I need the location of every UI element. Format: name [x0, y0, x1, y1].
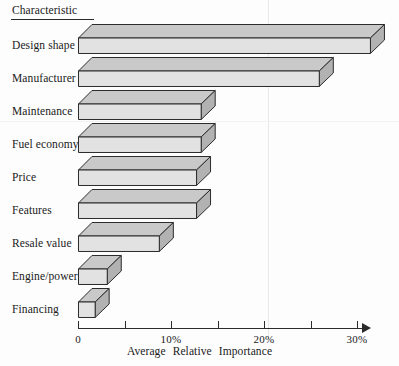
bar-fuel-economy — [78, 123, 216, 153]
x-tick-25 — [311, 321, 312, 329]
category-label-price: Price — [12, 171, 36, 183]
category-label-financing: Financing — [12, 303, 59, 315]
x-tick-15 — [218, 321, 219, 329]
bar-financing — [78, 288, 110, 318]
category-label-manufacturer: Manufacturer — [12, 72, 76, 84]
bar-features — [78, 189, 211, 219]
x-tick-5 — [125, 321, 126, 329]
x-tick-0 — [78, 321, 79, 329]
x-tick-label-0: 0 — [75, 333, 81, 345]
x-axis-arrowhead — [362, 323, 371, 333]
characteristic-header: Characteristic — [12, 4, 77, 16]
category-label-fuel-economy: Fuel economy — [12, 138, 79, 150]
x-axis-title: Average Relative Importance — [0, 345, 399, 357]
bar-design-shape — [78, 24, 385, 54]
category-label-resale-value: Resale value — [12, 237, 72, 249]
x-tick-10 — [171, 321, 172, 329]
chart-canvas: Characteristic Design shapeManufacturerM… — [0, 0, 399, 366]
x-tick-20 — [264, 321, 265, 329]
x-tick-label-30: 30% — [347, 333, 368, 345]
bar-engine-power — [78, 255, 122, 285]
category-label-design-shape: Design shape — [12, 39, 75, 51]
x-axis-line — [78, 328, 364, 329]
bar-maintenance — [78, 90, 216, 120]
x-tick-label-10: 10% — [161, 333, 182, 345]
category-label-maintenance: Maintenance — [12, 105, 73, 117]
bar-resale-value — [78, 222, 174, 252]
category-label-engine-power: Engine/power — [12, 270, 78, 282]
bar-price — [78, 156, 211, 186]
x-tick-30 — [357, 321, 358, 329]
bar-manufacturer — [78, 57, 334, 87]
x-tick-label-20: 20% — [254, 333, 275, 345]
scan-fold-artifact-horizontal — [0, 121, 399, 122]
category-label-features: Features — [12, 204, 52, 216]
characteristic-header-underline — [11, 19, 94, 20]
